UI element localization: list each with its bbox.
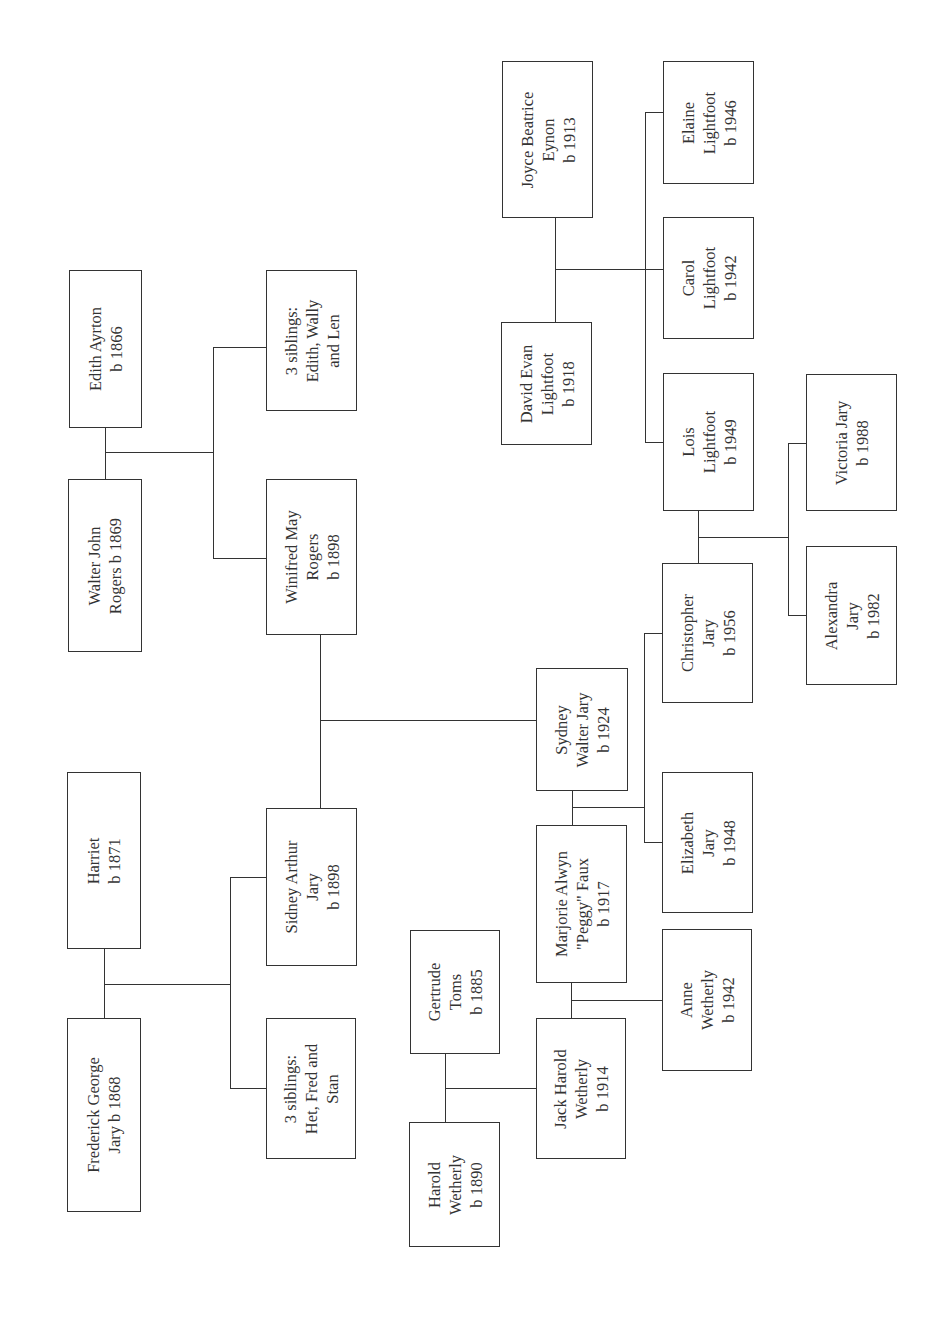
connector-line [230,1088,266,1089]
connector-line [104,984,231,985]
person-label: Sidney Arthur Jary b 1898 [280,840,343,933]
connector-line [320,720,536,721]
person-frederick-george-jary: Frederick George Jary b 1868 [67,1018,141,1212]
person-harold-wetherly: Harold Wetherly b 1890 [409,1122,500,1247]
person-elaine-lightfoot: Elaine Lightfoot b 1946 [663,61,754,184]
person-harriet: Harriet b 1871 [67,772,141,949]
connector-line [644,633,662,634]
person-winifred-may-rogers: Winifred May Rogers b 1898 [266,479,357,635]
person-anne-wetherly: Anne Wetherly b 1942 [662,929,752,1071]
person-label: 3 siblings: Het, Fred and Stan [280,1043,343,1133]
connector-line [645,112,646,443]
connector-line [788,615,806,616]
connector-line [644,633,645,843]
person-label: Harriet b 1871 [83,837,125,884]
person-label: Jack Harold Wetherly b 1914 [550,1049,613,1128]
connector-line [644,842,662,843]
person-label: 3 siblings: Edith, Wally and Len [280,299,343,382]
person-label: Walter John Rogers b 1869 [84,517,126,613]
person-label: Christopher Jary b 1956 [676,594,739,672]
person-label: David Evan Lightfoot b 1918 [515,344,578,422]
connector-line [698,537,788,538]
person-label: Joyce Beatrice Eynon b 1913 [516,91,579,188]
connector-line [105,427,106,479]
connector-line [572,807,644,808]
person-edith-ayrton: Edith Ayrton b 1866 [69,270,142,428]
person-sydney-walter-jary: Sydney Walter Jary b 1924 [536,668,628,791]
connector-line [213,347,266,348]
person-victoria-jary: Victoria Jary b 1988 [806,374,897,511]
person-walter-john-rogers: Walter John Rogers b 1869 [68,479,142,652]
person-label: Carol Lightfoot b 1942 [677,247,740,309]
person-david-evan-lightfoot: David Evan Lightfoot b 1918 [501,322,592,445]
person-joyce-beatrice-eynon: Joyce Beatrice Eynon b 1913 [502,61,593,218]
person-label: Frederick George Jary b 1868 [83,1057,125,1173]
person-label: Alexandra Jary b 1982 [820,581,883,650]
connector-line [645,112,663,113]
person-label: Gertrude Toms b 1885 [424,963,487,1022]
connector-line [104,948,105,1018]
connector-line [445,1088,536,1089]
person-christopher-jary: Christopher Jary b 1956 [662,563,753,703]
connector-line [213,347,214,558]
person-label: Elizabeth Jary b 1948 [676,811,739,873]
person-elizabeth-jary: Elizabeth Jary b 1948 [662,772,753,913]
connector-line [571,1000,662,1001]
connector-line [320,634,321,808]
person-label: Lois Lightfoot b 1949 [677,411,740,473]
person-label: Elaine Lightfoot b 1946 [677,91,740,153]
person-label: Anne Wetherly b 1942 [676,970,739,1030]
connector-line [788,443,789,616]
person-sidney-arthur-jary: Sidney Arthur Jary b 1898 [266,808,357,966]
person-carol-lightfoot: Carol Lightfoot b 1942 [663,217,754,339]
connector-line [105,452,214,453]
connector-line [645,442,663,443]
connector-line [555,269,663,270]
person-lois-lightfoot: Lois Lightfoot b 1949 [663,373,754,511]
person-label: Victoria Jary b 1988 [831,400,873,485]
connector-line [230,877,266,878]
siblings-edith-wally-len: 3 siblings: Edith, Wally and Len [266,270,357,411]
person-label: Edith Ayrton b 1866 [85,307,127,391]
connector-line [230,877,231,1088]
connector-line [788,443,806,444]
person-label: Harold Wetherly b 1890 [423,1154,486,1214]
person-gertrude-toms: Gertrude Toms b 1885 [410,930,500,1054]
siblings-het-fred-stan: 3 siblings: Het, Fred and Stan [266,1018,356,1159]
person-marjorie-alwyn-faux: Marjorie Alwyn "Peggy" Faux b 1917 [536,825,627,983]
person-label: Sydney Walter Jary b 1924 [551,692,614,767]
person-label: Marjorie Alwyn "Peggy" Faux b 1917 [550,851,613,957]
connector-line [213,558,266,559]
person-label: Winifred May Rogers b 1898 [280,510,343,603]
person-jack-harold-wetherly: Jack Harold Wetherly b 1914 [536,1018,626,1159]
person-alexandra-jary: Alexandra Jary b 1982 [806,546,897,685]
